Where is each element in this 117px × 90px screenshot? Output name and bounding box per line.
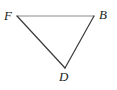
- vertex-label-f: F: [4, 9, 12, 22]
- vertex-label-b: B: [99, 8, 107, 21]
- geometry-figure: F B D: [0, 0, 117, 90]
- triangle-side-bd: [65, 16, 94, 68]
- vertex-label-d: D: [59, 70, 68, 83]
- triangle-side-df: [17, 16, 65, 68]
